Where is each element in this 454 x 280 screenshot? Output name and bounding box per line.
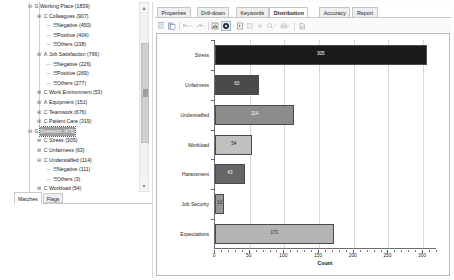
tree-leaf-connector: — xyxy=(45,165,52,175)
tree-item[interactable]: ⊞CUnfairness (63) xyxy=(14,146,84,156)
tree-scrollbar-thumb[interactable] xyxy=(141,43,149,143)
chart-x-tick xyxy=(228,250,229,252)
tree-item[interactable]: ⊞CColleagues (907) xyxy=(14,12,89,22)
chart-x-tick xyxy=(332,250,333,252)
left-bottom-tabs: MatchesFlags xyxy=(14,192,152,204)
application-window: ⊟GWorking Place (1839)⊞CColleagues (907)… xyxy=(0,0,454,280)
tree-node-type-icon: C xyxy=(42,184,49,192)
chart-bar-value-label: 13 xyxy=(215,193,224,213)
chart-y-tick-label: Expectations xyxy=(157,223,209,245)
tree-item-label: Others (3) xyxy=(57,175,80,185)
chart-bar-row: 305 xyxy=(215,44,437,66)
tree-expand-icon[interactable]: ⊞ xyxy=(35,117,42,127)
chart-x-tick xyxy=(408,250,409,252)
tree-expand-icon[interactable]: ⊞ xyxy=(35,88,42,98)
export-icon[interactable] xyxy=(298,22,306,30)
tree-node-type-icon: A xyxy=(42,50,49,60)
tree-item[interactable]: ⊟GWorking Place (1839) xyxy=(14,2,90,12)
bottom-tab-matches[interactable]: Matches xyxy=(14,192,42,204)
chart-toolbar xyxy=(156,19,451,32)
zoom-reset-icon[interactable] xyxy=(256,22,264,30)
chart-x-tick xyxy=(235,250,236,252)
toolbar-separator xyxy=(208,22,209,30)
chart-y-tick-label: Workload xyxy=(157,134,209,156)
tree-item-label: Teamwork (676) xyxy=(49,108,86,118)
distribution-chart[interactable]: 30563114544313171 StressUnfairnessUnders… xyxy=(156,33,450,276)
tree-node-type-icon: A xyxy=(42,98,49,108)
chart-x-tick xyxy=(394,250,395,252)
tree-item[interactable]: ⊞CPatient Care (319) xyxy=(14,117,91,127)
chart-x-tick-label: 100 xyxy=(273,253,293,258)
chart-bar-row: 43 xyxy=(215,163,437,185)
tree-item-label: Others (277) xyxy=(57,79,86,89)
tree-item[interactable]: —☰Positive (269) xyxy=(14,69,89,79)
chart-x-tick xyxy=(415,250,416,252)
tree-expand-icon[interactable]: ⊞ xyxy=(35,146,42,156)
chart-bar-value-label: 305 xyxy=(215,44,427,64)
tree-item[interactable]: ⊞CWork Environment (53) xyxy=(14,88,102,98)
chart-x-tick-label: 0 xyxy=(204,253,224,258)
chart-bar-row: 63 xyxy=(215,74,437,96)
tree-item[interactable]: —☰Positive (404) xyxy=(14,31,89,41)
bottom-tab-flags[interactable]: Flags xyxy=(43,193,64,203)
tree-scrollbar[interactable]: ▲ ▼ xyxy=(139,2,149,192)
pan-icon[interactable] xyxy=(246,22,254,30)
tree-item[interactable]: ⊞CTeamwork (676) xyxy=(14,108,86,118)
print-dropdown-icon[interactable] xyxy=(287,22,291,30)
tree-expand-icon[interactable]: ⊞ xyxy=(35,12,42,22)
tree-item-label: Negative (111) xyxy=(57,165,90,175)
tree-item[interactable]: —☰Others (277) xyxy=(14,79,86,89)
tree-collapse-icon[interactable]: ⊟ xyxy=(35,156,42,166)
undo-dropdown-icon[interactable] xyxy=(189,22,193,30)
tree-expand-icon[interactable]: ⊞ xyxy=(35,108,42,118)
chart-bar-value-label: 114 xyxy=(215,104,294,124)
redo-dropdown-icon[interactable] xyxy=(202,22,206,30)
tree-item-label: Job Satisfaction (766) xyxy=(49,50,99,60)
chart-x-tick-label: 200 xyxy=(343,253,363,258)
tree-expand-icon[interactable]: ⊞ xyxy=(35,184,42,192)
tree-item[interactable]: —☰Negative (226) xyxy=(14,60,91,70)
chart-x-tick-label: 300 xyxy=(412,253,432,258)
tree-expand-icon[interactable]: ⊞ xyxy=(35,50,42,60)
chart-x-tick xyxy=(276,250,277,252)
tree-item[interactable]: ⊞CWorkload (54) xyxy=(14,184,81,192)
paste-icon[interactable] xyxy=(168,22,176,30)
tree-item-label: Stressors (476) xyxy=(40,127,75,137)
chart-x-tick-label: 150 xyxy=(308,253,328,258)
copy-icon[interactable] xyxy=(158,22,166,30)
select-pointer-icon[interactable] xyxy=(236,22,244,30)
tree-item-label: Positive (269) xyxy=(57,69,89,79)
tree-item[interactable]: —☰Negative (111) xyxy=(14,165,90,175)
tree-item[interactable]: —☰Negative (450) xyxy=(14,21,91,31)
chart-x-tick xyxy=(297,250,298,252)
chart-y-tick-label: Stress xyxy=(157,44,209,66)
category-tree[interactable]: ⊟GWorking Place (1839)⊞CColleagues (907)… xyxy=(14,2,152,192)
chart-x-tick xyxy=(304,250,305,252)
tree-leaf-connector: — xyxy=(45,60,52,70)
tree-item[interactable]: ⊟GStressors (476) xyxy=(14,127,75,137)
chart-x-tick xyxy=(242,250,243,252)
scroll-down-arrow-icon[interactable]: ▼ xyxy=(140,181,148,191)
tree-collapse-icon[interactable]: ⊟ xyxy=(26,2,33,12)
tree-expand-icon[interactable]: ⊞ xyxy=(35,98,42,108)
chart-data-icon[interactable] xyxy=(211,22,219,30)
tree-item[interactable]: —☰Others (238) xyxy=(14,40,86,50)
tree-item[interactable]: ⊞AJob Satisfaction (766) xyxy=(14,50,99,60)
scroll-up-arrow-icon[interactable]: ▲ xyxy=(140,3,148,13)
left-panel: ⊟GWorking Place (1839)⊞CColleagues (907)… xyxy=(0,0,152,280)
settings-gear-icon[interactable] xyxy=(222,22,230,30)
chart-y-tick xyxy=(211,130,214,131)
tree-item[interactable]: ⊞CStress (305) xyxy=(14,136,77,146)
tree-collapse-icon[interactable]: ⊟ xyxy=(26,127,33,137)
tree-item[interactable]: ⊞AEquipment (151) xyxy=(14,98,87,108)
zoom-dropdown-icon[interactable] xyxy=(273,22,277,30)
tree-expand-icon[interactable]: ⊞ xyxy=(35,136,42,146)
chart-x-tick xyxy=(367,250,368,252)
chart-x-tick xyxy=(325,250,326,252)
chart-x-tick xyxy=(290,250,291,252)
chart-bar-row: 114 xyxy=(215,104,437,126)
chart-x-tick xyxy=(221,250,222,252)
chart-y-tick xyxy=(211,40,214,41)
tree-item[interactable]: —☰Others (3) xyxy=(14,175,80,185)
tree-item[interactable]: ⊟CUnderstaffed (114) xyxy=(14,156,92,166)
